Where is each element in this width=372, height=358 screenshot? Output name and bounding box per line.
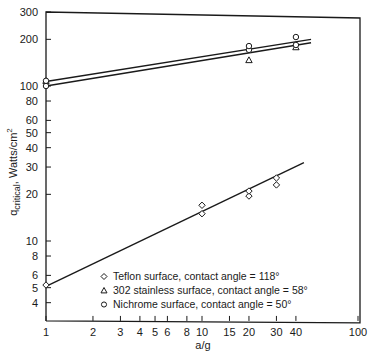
y-tick-label: 50 [26,127,38,139]
x-tick-label: 20 [243,326,255,338]
y-tick-label: 80 [26,95,38,107]
fit-line [46,39,311,81]
x-tick-label: 40 [290,326,302,338]
legend: Teflon surface, contact angle = 118°302 … [101,270,308,310]
circle-marker-icon [246,43,251,48]
diamond-marker-icon [101,274,107,280]
x-tick-label: 4 [137,326,143,338]
legend-entry: Nichrome surface, contact angle = 50° [113,298,291,310]
y-tick-label: 200 [20,33,38,45]
x-tick-label: 1 [43,326,49,338]
diamond-marker-icon [246,188,252,194]
circle-marker-icon [293,34,298,39]
x-tick-label: 8 [184,326,190,338]
y-tick-label: 100 [20,80,38,92]
y-tick-label: 6 [32,269,38,281]
x-tick-label: 3 [117,326,123,338]
y-tick-label: 4 [32,297,38,309]
x-tick-label: 6 [164,326,170,338]
diamond-marker-icon [273,182,279,188]
y-tick-label: 60 [26,114,38,126]
y-tick-label: 300 [20,6,38,18]
diamond-marker-icon [199,211,205,217]
diamond-marker-icon [273,175,279,181]
chart: 12345681015203040100 4568102030405060801… [0,0,372,358]
y-tick-label: 5 [32,282,38,294]
triangle-marker-icon [246,57,252,63]
x-tick-label: 2 [90,326,96,338]
y-tick-label: 30 [26,161,38,173]
circle-marker-icon [43,78,48,83]
fit-line [46,43,311,86]
x-tick-label: 30 [270,326,282,338]
x-axis-title: a/g [195,339,210,351]
x-axis: 12345681015203040100 [43,316,367,338]
diamond-marker-icon [199,202,205,208]
legend-entry: Teflon surface, contact angle = 118° [113,270,280,282]
data-points [43,34,299,288]
x-tick-label: 100 [349,326,367,338]
circle-marker-icon [43,83,48,88]
y-tick-label: 10 [26,235,38,247]
y-tick-label: 20 [26,188,38,200]
y-axis-title: qcritical, Watts/cm2 [5,128,22,216]
legend-entry: 302 stainless surface, contact angle = 5… [113,284,308,296]
x-tick-label: 15 [223,326,235,338]
fit-lines [46,39,311,286]
circle-marker-icon [293,42,298,47]
y-tick-label: 40 [26,142,38,154]
fit-line [46,163,304,287]
triangle-marker-icon [101,288,107,293]
x-tick-label: 10 [196,326,208,338]
circle-marker-icon [101,302,106,307]
x-tick-label: 5 [152,326,158,338]
y-tick-label: 8 [32,250,38,262]
